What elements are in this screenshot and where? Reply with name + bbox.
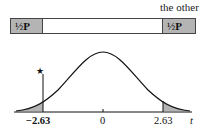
t-axis-label: t xyxy=(190,115,193,126)
pos-cutoff-label: 2.63 xyxy=(154,115,172,126)
right-tail-shade xyxy=(163,101,190,111)
zero-label: 0 xyxy=(100,115,105,126)
star-marker: ★ xyxy=(36,66,44,76)
density-curve xyxy=(16,52,190,111)
neg-cutoff-label: −2.63 xyxy=(26,115,50,126)
left-tail-shade xyxy=(16,101,43,111)
